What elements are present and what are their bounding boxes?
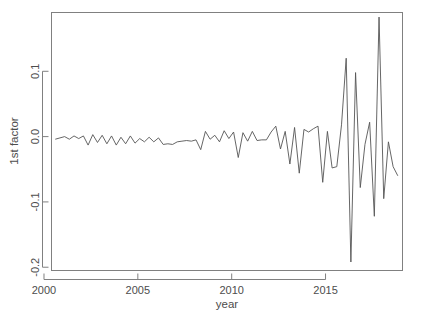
y-tick-label: -0.2	[29, 258, 41, 277]
series-1st-factor	[55, 17, 398, 262]
x-tick-label: 2000	[32, 284, 56, 296]
y-tick-label: -0.1	[29, 192, 41, 211]
x-tick-label: 2015	[313, 284, 337, 296]
y-axis	[43, 71, 49, 267]
x-axis	[44, 274, 326, 280]
x-axis-line	[44, 274, 326, 280]
x-tick-label-group: 2000200520102015	[32, 284, 338, 296]
y-axis-title: 1st factor	[8, 117, 20, 164]
y-axis-line	[43, 71, 49, 267]
x-tick-label: 2005	[126, 284, 150, 296]
line-chart-svg: 0.10.0-0.1-0.2 2000200520102015 year 1st…	[0, 0, 421, 327]
chart-figure: 0.10.0-0.1-0.2 2000200520102015 year 1st…	[0, 0, 421, 327]
y-tick-label: 0.1	[29, 64, 41, 79]
y-tick-label: 0.0	[29, 129, 41, 144]
x-axis-title: year	[216, 298, 239, 310]
y-tick-label-group: 0.10.0-0.1-0.2	[29, 64, 41, 277]
x-tick-label: 2010	[219, 284, 243, 296]
